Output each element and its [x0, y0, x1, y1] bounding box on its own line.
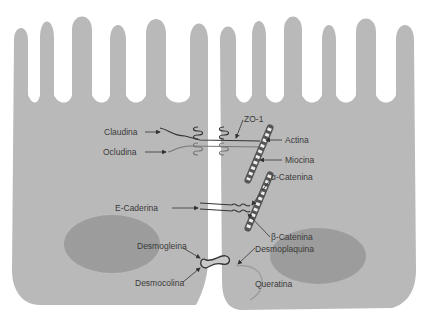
label-claudina: Claudina	[104, 127, 138, 137]
diagram-canvas	[0, 0, 430, 321]
label-alpha-catenina: α-Catenina	[271, 172, 313, 182]
label-queratina: Queratina	[255, 279, 292, 289]
label-desmoplaquina: Desmoplaquina	[255, 244, 314, 254]
cell-junction-diagram: Claudina Ocludina ZO-1 Actina Miocina α-…	[0, 0, 430, 321]
label-e-caderina: E-Caderina	[115, 203, 158, 213]
label-zo1: ZO-1	[244, 114, 263, 124]
label-desmogleina: Desmogleina	[137, 241, 187, 251]
label-ocludina: Ocludina	[103, 147, 137, 157]
label-actina: Actina	[285, 135, 309, 145]
label-miocina: Miocina	[285, 155, 314, 165]
label-desmocolina: Desmocolina	[135, 278, 184, 288]
label-beta-catenina: β-Catenina	[271, 232, 313, 242]
